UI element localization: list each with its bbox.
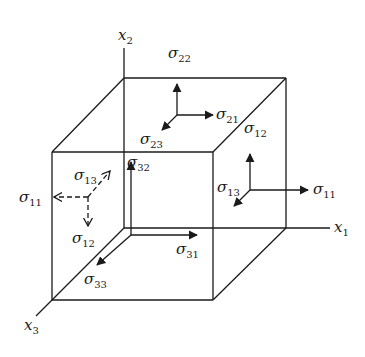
- x3-axis-label: x3: [24, 318, 39, 336]
- sigma21-label: σ21: [216, 107, 239, 125]
- right-face-arrows: [234, 154, 308, 206]
- cube-edges: [52, 78, 286, 300]
- sigma11-right-label: σ11: [313, 182, 336, 200]
- sigma23-label: σ23: [140, 132, 163, 150]
- sigma11-hidden-label: σ11: [19, 190, 42, 208]
- sigma31-label: σ31: [176, 242, 199, 260]
- sigma12-hidden-label: σ12: [72, 231, 95, 249]
- sigma32-label: σ32: [127, 155, 150, 173]
- stress-cube-diagram: x2 x1 x3 σ22 σ21 σ23 σ12 σ11 σ13 σ11 σ12…: [0, 0, 365, 357]
- sigma13-right-label: σ13: [217, 180, 240, 198]
- sigma13-hidden-label: σ13: [74, 168, 97, 186]
- sigma33-label: σ33: [84, 272, 107, 290]
- sigma22-label: σ22: [168, 46, 191, 64]
- sigma12-right-label: σ12: [244, 121, 267, 139]
- x2-axis-label: x2: [118, 28, 133, 46]
- x1-axis-label: x1: [334, 220, 349, 238]
- top-face-arrows: [162, 84, 213, 130]
